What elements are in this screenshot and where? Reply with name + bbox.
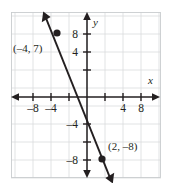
point-label-b: (2, –8) <box>108 140 138 153</box>
x-axis <box>11 93 160 101</box>
y-tick-label-4: 4 <box>72 46 78 58</box>
x-tick-label-8: 8 <box>138 102 144 114</box>
x-tick-label-4: 4 <box>120 102 126 114</box>
data-point-b <box>98 155 105 162</box>
line-arrow-down <box>105 173 114 183</box>
graph-figure: x y –8 –4 4 8 8 4 –4 –8 (–4, 7) (2, –8) <box>0 0 172 183</box>
y-tick-label-8: 8 <box>72 28 78 40</box>
x-tick-label-neg8: –8 <box>26 102 39 114</box>
y-axis-arrow-down <box>83 170 91 178</box>
coordinate-plane: x y –8 –4 4 8 8 4 –4 –8 (–4, 7) (2, –8) <box>0 0 172 183</box>
data-point-a <box>53 29 60 36</box>
y-tick-label-neg8: –8 <box>66 154 79 166</box>
x-axis-label: x <box>147 74 153 86</box>
line-segment <box>46 17 111 179</box>
y-axis <box>83 12 91 178</box>
grid-frame <box>12 13 161 178</box>
y-axis-label: y <box>92 16 98 28</box>
y-tick-label-neg4: –4 <box>66 118 79 130</box>
x-tick-label-neg4: –4 <box>44 102 57 114</box>
point-label-a: (–4, 7) <box>13 42 43 55</box>
